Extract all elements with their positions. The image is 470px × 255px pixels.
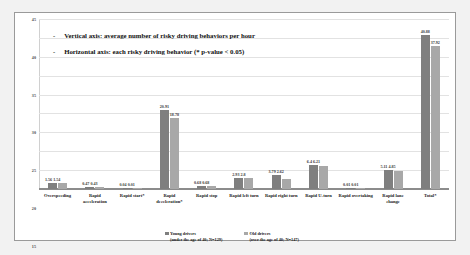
- bullet-dash: -: [53, 49, 55, 56]
- legend-entry[interactable]: Young drivers(under the age of 40; N=129…: [165, 231, 222, 243]
- bullet-dash: -: [53, 33, 55, 40]
- bar-value-label: 6.4 6.21: [307, 160, 320, 165]
- bar-value-label: 2.93 2.8: [232, 173, 245, 178]
- category-label: Rapid acceleration: [76, 193, 113, 205]
- annotation-row: -Vertical axis: average number of risky …: [53, 33, 373, 40]
- bar-old: 18.78: [170, 118, 179, 189]
- annotation-text: Horizontal axis: each risky driving beha…: [64, 49, 244, 56]
- bar-old: [319, 166, 328, 189]
- bar-value-label: 1.56 1.54: [45, 178, 60, 183]
- y-axis-tick-label: 45: [32, 18, 36, 22]
- y-axis-tick-label: 20: [32, 207, 36, 211]
- bar-old: [356, 188, 365, 189]
- bar-young: 6.4 6.21: [309, 165, 318, 189]
- old-series-swatch: [244, 232, 248, 236]
- category-label: Total*: [412, 193, 449, 205]
- legend-label: Young drivers(under the age of 40; N=129…: [170, 231, 222, 243]
- bar-value-label: 0.04 0.01: [119, 183, 134, 188]
- bar-value-label: 0.01 0.01: [343, 183, 358, 188]
- bar-young: 5.11 4.85: [384, 170, 393, 189]
- category-label: Rapid lane change: [374, 193, 411, 205]
- y-axis-tick-label: 30: [32, 131, 36, 135]
- bar-value-label: 37.92: [431, 41, 440, 46]
- bar-young: 2.93 2.8: [234, 178, 243, 189]
- bar-old: [133, 188, 142, 189]
- bar-old: [95, 187, 104, 189]
- bar-young: 20.91: [160, 110, 169, 189]
- bar-value-label: 40.88: [421, 30, 430, 35]
- bar-value-label: 18.78: [170, 113, 179, 118]
- bar-old: [282, 179, 291, 189]
- bar-young: 1.56 1.54: [48, 183, 57, 189]
- category-label: Rapid deceleration*: [151, 193, 188, 205]
- bar-value-label: 5.11 4.85: [380, 165, 395, 170]
- bar-value-label: 0.47 0.43: [82, 182, 97, 187]
- category-labels: OverspeedingRapid accelerationRapid star…: [39, 193, 449, 205]
- legend-entry[interactable]: Old drivers(over the age of 40; N=147): [244, 231, 299, 243]
- annotation-text: Vertical axis: average number of risky d…: [64, 33, 255, 40]
- bar-group: 40.8837.92: [412, 19, 449, 189]
- bar-young: 0.04 0.01: [123, 188, 132, 189]
- chart-legend: Young drivers(under the age of 40; N=129…: [165, 231, 299, 243]
- legend-label-line2: (under the age of 40; N=129): [170, 237, 222, 243]
- legend-label: Old drivers(over the age of 40; N=147): [249, 231, 299, 243]
- bar-old: [58, 183, 67, 189]
- category-label: Rapid left turn: [225, 193, 262, 205]
- slide-background: 051015202530354045 1.56 1.540.47 0.430.0…: [0, 0, 470, 255]
- chart-frame: 051015202530354045 1.56 1.540.47 0.430.0…: [14, 12, 456, 241]
- bar-young: 3.79 2.62: [272, 175, 281, 189]
- bar-young: 40.88: [421, 35, 430, 189]
- bar-value-label: 0.68 0.68: [194, 181, 209, 186]
- category-label: Rapid U-turn: [300, 193, 337, 205]
- bar-young: 0.68 0.68: [197, 186, 206, 189]
- bar-old: [394, 171, 403, 189]
- bar-old: 37.92: [431, 46, 440, 189]
- category-label: Rapid overtaking: [337, 193, 374, 205]
- bar-value-label: 3.79 2.62: [269, 170, 284, 175]
- y-axis-tick-label: 15: [32, 245, 36, 249]
- gridline: 0: [39, 189, 449, 190]
- bar-old: [207, 186, 216, 189]
- category-label: Overspeeding: [39, 193, 76, 205]
- y-axis-tick-label: 35: [32, 93, 36, 97]
- annotation-row: -Horizontal axis: each risky driving beh…: [53, 49, 373, 56]
- bar-young: 0.01 0.01: [346, 188, 355, 189]
- annotation-notes: -Vertical axis: average number of risky …: [53, 33, 373, 65]
- category-label: Rapid stop: [188, 193, 225, 205]
- young-series-swatch: [165, 232, 169, 236]
- y-axis-tick-label: 40: [32, 56, 36, 60]
- category-label: Rapid right turn: [263, 193, 300, 205]
- category-label: Rapid start*: [114, 193, 151, 205]
- bar-old: [244, 178, 253, 189]
- bar-young: 0.47 0.43: [85, 187, 94, 189]
- bar-group: 5.11 4.85: [374, 19, 411, 189]
- bar-value-label: 20.91: [160, 105, 169, 110]
- legend-label-line2: (over the age of 40; N=147): [249, 237, 299, 243]
- y-axis-tick-label: 25: [32, 169, 36, 173]
